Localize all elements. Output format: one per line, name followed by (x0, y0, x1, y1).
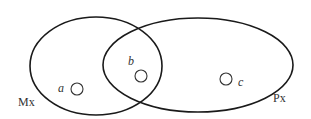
element-a-label: a (58, 82, 64, 94)
element-b-circle (135, 70, 147, 82)
element-a-circle (71, 83, 83, 95)
element-c-label: c (238, 76, 243, 88)
set-mx-ellipse (30, 17, 162, 115)
set-px-label: Px (273, 92, 286, 104)
venn-diagram: Mx Px a b c (0, 0, 311, 119)
venn-diagram-graphic (0, 0, 311, 119)
element-c-circle (220, 73, 232, 85)
element-b-label: b (128, 55, 134, 67)
set-mx-label: Mx (18, 96, 35, 108)
